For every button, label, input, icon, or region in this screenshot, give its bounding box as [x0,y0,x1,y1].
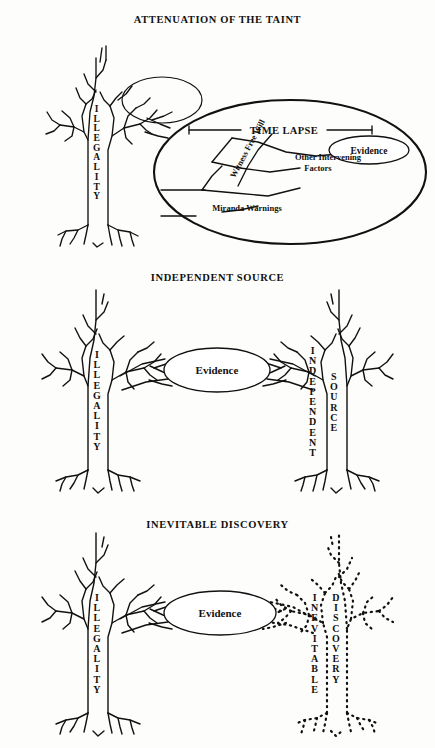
evidence-label-independent: Evidence [196,364,239,376]
panel-attenuation-of-the-taint: ATTENUATION OF THE TAINT [0,0,435,258]
tree-illegality-outline [46,46,172,247]
tree-illegality-left [42,290,175,493]
independent-source-diagram-svg: Evidence [0,258,435,505]
other-intervening-label: Other Intervening [295,152,362,162]
magnifier-lens-ellipse [154,100,426,244]
attenuation-diagram-svg: Evidence TIME LAPSE Other Intervening Fa… [0,0,435,258]
panel-independent-source: INDEPENDENT SOURCE [0,258,435,505]
panel-inevitable-discovery: INEVITABLE DISCOVERY [0,505,435,748]
miranda-warnings-label: Miranda Warnings [212,203,282,213]
tree-illegality-left-inevitable [42,533,175,736]
tree-independent-source-right [260,290,393,493]
diagram-page: ATTENUATION OF THE TAINT [0,0,435,748]
tree-inevitable-discovery-right-dotted [260,533,393,736]
inevitable-discovery-diagram-svg: Evidence [0,505,435,748]
factors-label: Factors [304,163,332,173]
evidence-label-inevitable: Evidence [199,607,242,619]
